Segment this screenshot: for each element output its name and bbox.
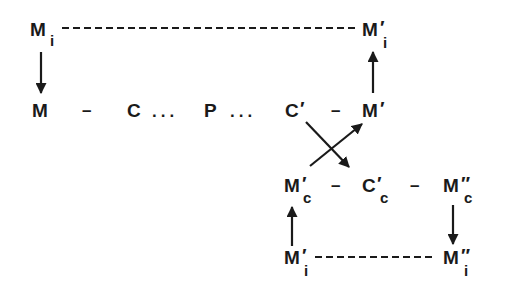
svg-text:i: i [304,262,308,279]
node-cc-prime: C ′ c [362,173,388,206]
separator-dash: – [331,101,340,120]
svg-text:i: i [383,34,387,51]
svg-text:M: M [362,100,378,121]
separator-dash: – [331,176,340,195]
separator-dots: ... [152,102,178,121]
node-mi-prime-top: M ′ i [362,17,387,51]
separator-dash: – [82,101,91,120]
svg-text:c: c [303,189,311,206]
node-mc-double-prime: M ″ c [443,173,472,206]
svg-text:′: ′ [380,98,385,119]
svg-text:C: C [285,100,299,121]
svg-text:M: M [284,175,300,196]
svg-text:M: M [362,19,378,40]
capital-circuit-diagram: M i M ′ i M – C ... P ... C ′ – M ′ M ′ … [0,0,509,302]
node-m: M [32,100,48,121]
svg-text:M: M [284,247,300,268]
node-mi-double-prime-bottom: M ″ i [443,245,470,279]
svg-text:c: c [380,189,388,206]
node-m-prime: M ′ [362,98,385,121]
svg-text:M: M [443,175,459,196]
svg-text:i: i [50,32,54,49]
svg-text:c: c [464,189,472,206]
node-p: P [204,100,217,121]
arrow-cross-down-icon [306,122,349,167]
node-mi-prime-bottom: M ′ i [284,245,308,279]
node-mc-prime: M ′ c [284,173,311,206]
separator-dash: – [410,176,419,195]
node-mi-top: M i [30,19,54,49]
svg-text:′: ′ [300,98,305,119]
separator-dots: ... [230,102,256,121]
svg-text:i: i [464,262,468,279]
svg-text:C: C [362,175,376,196]
svg-text:M: M [443,247,459,268]
arrow-cross-up-icon [310,124,362,166]
node-c-prime: C ′ [285,98,305,121]
svg-text:M: M [30,19,46,40]
node-c: C [127,100,141,121]
